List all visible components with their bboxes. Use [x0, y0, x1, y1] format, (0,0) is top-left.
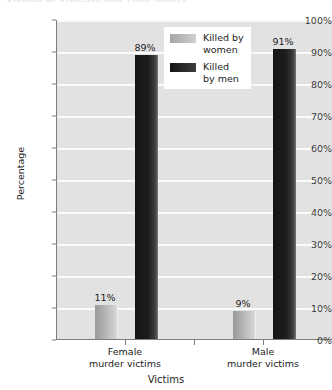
x-axis-tick-mark	[263, 340, 264, 345]
x-axis-category-label: Malemurder victims	[227, 346, 299, 369]
bar-value-label: 91%	[272, 36, 293, 47]
y-axis-tick-mark	[52, 212, 56, 213]
bar-killed-by-women	[233, 311, 256, 340]
y-axis-tick-mark	[52, 52, 56, 53]
legend-swatch-men-icon	[170, 63, 196, 72]
chart-title: Victims of Violence and Their Killers	[6, 0, 187, 4]
y-axis-tick-mark	[52, 244, 56, 245]
y-axis-tick-mark	[52, 84, 56, 85]
bar-value-label: 89%	[134, 42, 155, 53]
bar-killed-by-women	[95, 305, 118, 340]
y-axis-label: Percentage	[15, 129, 26, 219]
legend-label-women: Killed by women	[203, 32, 244, 55]
x-axis-label: Victims	[0, 374, 332, 385]
y-axis-tick-mark	[52, 276, 56, 277]
y-axis-tick-label: 80%	[280, 79, 332, 90]
y-axis-tick-mark	[52, 20, 56, 21]
y-axis-tick-label: 20%	[280, 271, 332, 282]
legend-item-killed-by-men: Killed by men	[170, 61, 244, 84]
x-axis-group-separator	[194, 340, 195, 345]
y-axis-tick-mark	[52, 148, 56, 149]
bar-chart: Victims of Violence and Their Killers 10…	[0, 0, 332, 390]
y-axis-tick-label: 0%	[280, 335, 332, 346]
legend-item-killed-by-women: Killed by women	[170, 32, 244, 55]
y-axis-tick-mark	[52, 308, 56, 309]
x-category-line2: murder victims	[89, 358, 161, 370]
legend-label-men: Killed by men	[203, 61, 239, 84]
chart-legend: Killed by women Killed by men	[164, 27, 251, 89]
y-axis-tick-mark	[52, 116, 56, 117]
y-axis-tick-label: 40%	[280, 207, 332, 218]
y-axis-tick-mark	[52, 180, 56, 181]
y-axis-tick-label: 100%	[280, 15, 332, 26]
x-category-line1: Female	[89, 346, 161, 358]
bar-value-label: 9%	[235, 298, 250, 309]
x-axis-category-label: Femalemurder victims	[89, 346, 161, 369]
legend-swatch-women-icon	[170, 34, 196, 43]
x-category-line2: murder victims	[227, 358, 299, 370]
bar-killed-by-men	[135, 55, 158, 340]
bar-value-label: 11%	[94, 292, 115, 303]
y-axis-tick-label: 10%	[280, 303, 332, 314]
y-axis-tick-label: 70%	[280, 111, 332, 122]
x-category-line1: Male	[227, 346, 299, 358]
x-axis-tick-mark	[125, 340, 126, 345]
y-axis-tick-label: 60%	[280, 143, 332, 154]
y-axis-tick-label: 50%	[280, 175, 332, 186]
y-axis-tick-label: 90%	[280, 47, 332, 58]
y-axis-tick-label: 30%	[280, 239, 332, 250]
y-axis-tick-mark	[52, 340, 56, 341]
bar-killed-by-men	[273, 49, 296, 340]
